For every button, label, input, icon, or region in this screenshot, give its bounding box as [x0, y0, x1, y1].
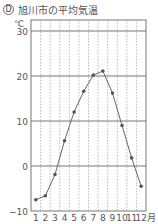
data-point — [82, 90, 86, 94]
data-point — [63, 139, 67, 143]
data-point — [101, 69, 105, 73]
y-tick-label: 0 — [22, 162, 28, 172]
data-point — [120, 124, 124, 128]
x-tick-label: 6 — [81, 213, 87, 223]
x-tick-label: 8 — [100, 213, 106, 223]
y-tick-label: 10 — [17, 117, 29, 127]
data-point — [91, 73, 95, 77]
data-point — [44, 194, 48, 198]
y-tick-label: 20 — [17, 72, 29, 82]
data-point — [111, 91, 115, 95]
x-tick-label: 9 — [110, 213, 116, 223]
x-tick-label: 5 — [71, 213, 77, 223]
data-point — [53, 173, 57, 177]
y-axis-unit-label: ℃ — [14, 19, 24, 29]
data-point — [130, 156, 134, 160]
x-tick-label: 12 — [135, 213, 146, 223]
x-tick-label: 2 — [43, 213, 49, 223]
y-tick-label: −10 — [9, 207, 28, 217]
x-tick-label: 3 — [52, 213, 58, 223]
x-tick-label: 4 — [62, 213, 68, 223]
data-point — [139, 184, 143, 188]
line-chart: −100102030℃123456789101112月 — [0, 0, 158, 224]
x-tick-label: 1 — [33, 213, 39, 223]
x-tick-label: 7 — [90, 213, 96, 223]
x-axis-unit-label: 月 — [147, 213, 156, 223]
data-point — [72, 110, 76, 114]
data-point — [34, 198, 38, 202]
